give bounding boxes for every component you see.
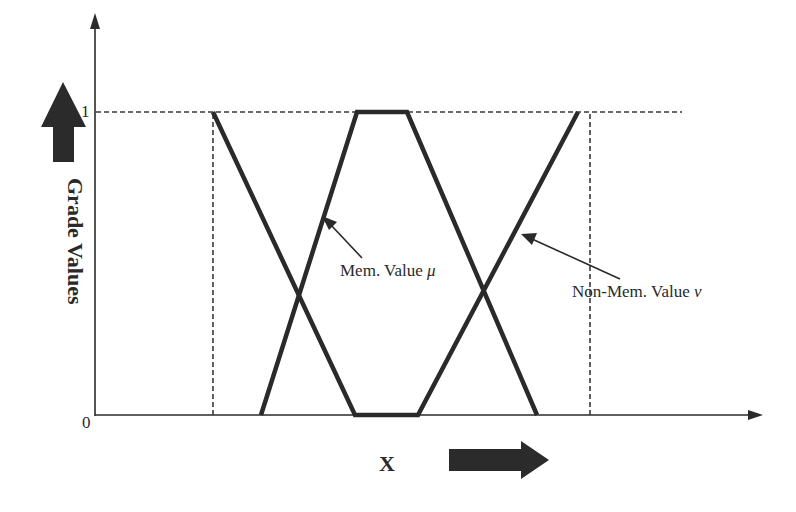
mem-value-pointer <box>322 216 362 258</box>
mu-symbol: μ <box>427 261 436 280</box>
mem-value-label: Mem. Value μ <box>340 261 436 281</box>
nonmem-value-label: Non-Mem. Value ν <box>572 282 702 302</box>
fuzzy-membership-diagram <box>0 0 796 512</box>
x-axis-title: X <box>379 451 395 477</box>
y-axis <box>90 13 100 416</box>
y-tick-zero: 0 <box>82 413 91 433</box>
y-tick-one: 1 <box>81 102 90 122</box>
x-axis-arrowhead-icon <box>748 410 763 420</box>
nu-symbol: ν <box>694 282 702 301</box>
mem-value-text: Mem. Value <box>340 261 427 280</box>
x-direction-right-arrow-icon <box>449 441 549 479</box>
nonmem-value-pointer <box>521 233 620 279</box>
x-axis <box>95 410 763 420</box>
nonmem-pointer-arrowhead-icon <box>521 233 537 245</box>
grade-direction-up-arrow-icon <box>41 82 86 162</box>
y-axis-title: Grade Values <box>62 178 88 305</box>
y-axis-arrowhead-icon <box>90 13 100 29</box>
nonmem-value-text: Non-Mem. Value <box>572 282 694 301</box>
